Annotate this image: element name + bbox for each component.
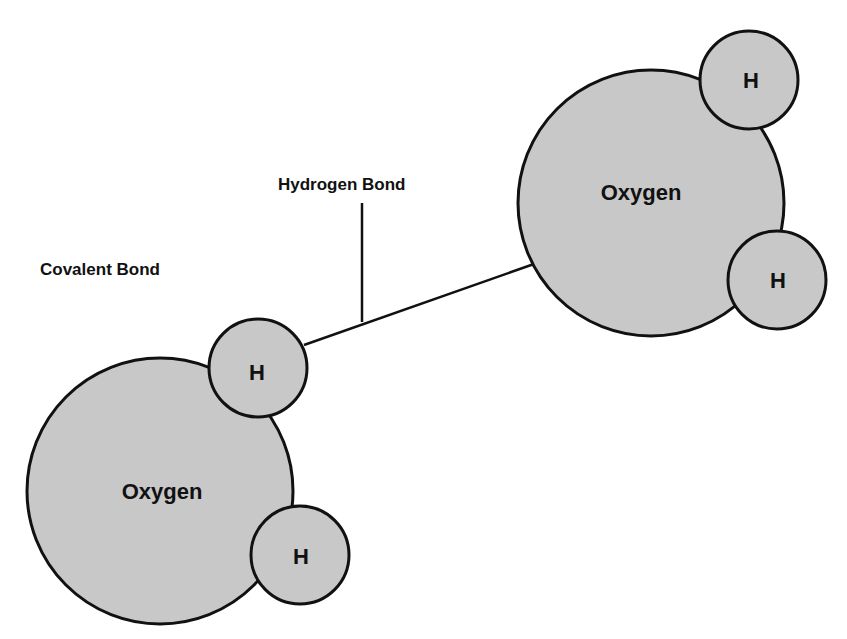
covalent-bond-label: Covalent Bond [40, 260, 160, 279]
hydrogen-label-left-bottom: H [293, 544, 309, 569]
oxygen-label-right: Oxygen [601, 180, 682, 205]
water-molecule-left: Oxygen H H [27, 319, 349, 624]
hydrogen-bond-line [304, 264, 534, 345]
hydrogen-label-right-bottom: H [770, 268, 786, 293]
water-molecule-right: Oxygen H H [518, 31, 826, 336]
oxygen-label-left: Oxygen [122, 479, 203, 504]
hydrogen-label-right-top: H [743, 68, 759, 93]
hydrogen-bond-label: Hydrogen Bond [278, 175, 406, 194]
hydrogen-label-left-top: H [249, 360, 265, 385]
water-hydrogen-bond-diagram: Oxygen H H Oxygen H H Hydrogen Bond Cova… [0, 0, 847, 639]
